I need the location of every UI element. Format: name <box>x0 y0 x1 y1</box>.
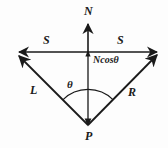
label-shear-left: S <box>43 34 50 46</box>
label-normal-component: Ncosθ <box>93 55 119 65</box>
label-shear-right: S <box>117 34 124 46</box>
vector-diagram-figure: N S S Ncosθ L R θ P <box>0 0 168 148</box>
label-left-limb: L <box>30 84 37 96</box>
label-apex: P <box>85 130 92 142</box>
label-normal: N <box>84 5 93 17</box>
label-angle-theta: θ <box>67 79 73 90</box>
label-right-limb: R <box>128 86 136 98</box>
diagram-canvas <box>0 0 168 148</box>
right-limb-line <box>88 55 157 125</box>
